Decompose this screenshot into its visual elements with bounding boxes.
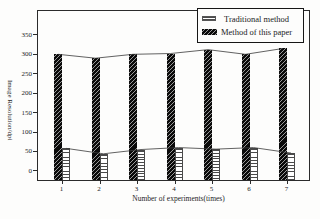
bar-method-of-this-paper-2 [92, 58, 100, 180]
legend-item-method-of-this-paper: Method of this paper [202, 27, 299, 37]
bar-method-of-this-paper-4 [167, 54, 175, 180]
bar-method-of-this-paper-1 [54, 54, 62, 180]
x-tick-5 [212, 181, 213, 184]
x-tick-1 [62, 181, 63, 184]
legend-label-method-of-this-paper: Method of this paper [221, 27, 292, 37]
bar-traditional-method-3 [137, 150, 145, 180]
y-tick-label-300: 300 [0, 50, 32, 58]
bar-method-of-this-paper-6 [242, 54, 250, 180]
bar-traditional-method-2 [100, 154, 108, 180]
x-tick-label-1: 1 [52, 185, 72, 193]
x-tick-label-2: 2 [89, 185, 109, 193]
bar-method-of-this-paper-5 [204, 50, 212, 180]
legend-item-traditional-method: Traditional method [202, 14, 299, 24]
y-tick-label-350: 350 [0, 31, 32, 39]
x-tick-label-3: 3 [127, 185, 147, 193]
y-tick-300 [33, 54, 37, 55]
y-tick-100 [33, 132, 37, 133]
bar-traditional-method-7 [287, 153, 295, 180]
bar-traditional-method-1 [62, 148, 70, 180]
x-tick-6 [250, 181, 251, 184]
diagonal-hatch-swatch-icon [202, 29, 217, 35]
bar-traditional-method-5 [212, 149, 220, 180]
x-tick-label-6: 6 [239, 185, 259, 193]
y-tick-label-100: 100 [0, 128, 32, 136]
y-tick-label-50: 50 [0, 147, 32, 155]
legend: Traditional method Method of this paper [197, 8, 304, 43]
x-tick-label-7: 7 [277, 185, 297, 193]
bar-traditional-method-4 [175, 148, 183, 180]
y-tick-350 [33, 34, 37, 35]
bar-method-of-this-paper-3 [129, 54, 137, 180]
chart-figure: Image Resolution/dpi Number of experimen… [0, 0, 320, 219]
y-tick-200 [33, 93, 37, 94]
x-tick-7 [287, 181, 288, 184]
y-tick-250 [33, 73, 37, 74]
horizontal-hatch-swatch-icon [202, 16, 216, 21]
y-tick-label-150: 150 [0, 109, 32, 117]
y-tick-0 [33, 170, 37, 171]
bar-traditional-method-6 [250, 148, 258, 180]
y-tick-label-0: 0 [0, 167, 32, 175]
y-tick-50 [33, 151, 37, 152]
x-tick-label-5: 5 [202, 185, 222, 193]
legend-label-traditional-method: Traditional method [224, 14, 289, 24]
x-tick-4 [175, 181, 176, 184]
x-tick-3 [137, 181, 138, 184]
x-axis-title: Number of experiments(times) [42, 194, 315, 203]
bar-method-of-this-paper-7 [279, 48, 287, 180]
y-tick-150 [33, 112, 37, 113]
y-tick-label-250: 250 [0, 70, 32, 78]
x-tick-label-4: 4 [164, 185, 184, 193]
y-tick-label-200: 200 [0, 89, 32, 97]
x-tick-2 [100, 181, 101, 184]
